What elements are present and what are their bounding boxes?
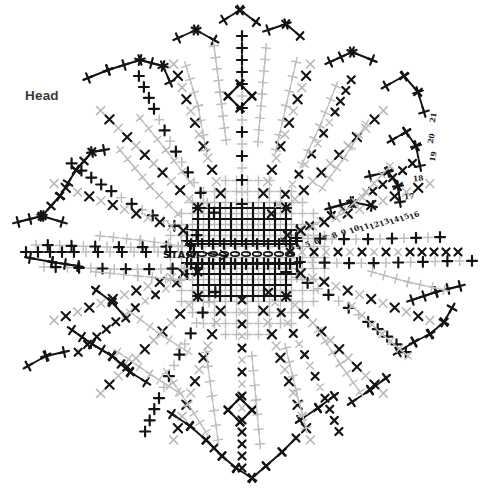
stitch-pattern-svg (0, 0, 485, 491)
start-label: START (163, 249, 202, 260)
pattern-canvas: Head START 12345678910111213141516171819… (0, 0, 485, 491)
stitch-number: 20 (426, 133, 437, 145)
stitch-number: 18 (413, 173, 424, 183)
stitch-number: 19 (428, 151, 439, 163)
stitch-number: 17 (404, 191, 415, 201)
head-label: Head (25, 88, 59, 103)
stitch-number: 21 (428, 112, 439, 124)
